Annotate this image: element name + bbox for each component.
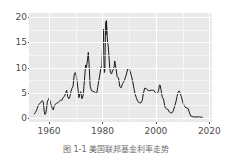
x-tick-mark	[102, 122, 103, 124]
gridline-minor-y	[29, 80, 212, 81]
figure-caption: 图 1-1 美国联邦基金利率走势	[0, 145, 232, 155]
x-tick-mark	[156, 122, 157, 124]
y-tick-label: 5	[5, 89, 27, 98]
y-tick-label: 0	[5, 114, 27, 123]
x-tick-mark	[49, 122, 50, 124]
y-tick-label: 15	[5, 38, 27, 47]
gridline-major-x	[209, 13, 210, 122]
gridline-minor-y	[29, 55, 212, 56]
gridline-minor-x	[129, 13, 130, 122]
x-axis: 1960198020002020	[29, 122, 212, 142]
gridline-major-y	[29, 118, 212, 119]
gridline-minor-y	[29, 30, 212, 31]
gridline-minor-y	[29, 105, 212, 106]
y-axis: 05101520	[0, 13, 27, 122]
gridline-minor-x	[183, 13, 184, 122]
gridline-major-y	[29, 68, 212, 69]
x-tick-label: 1960	[32, 126, 66, 136]
gridline-major-x	[49, 13, 50, 122]
y-tick-label: 20	[5, 13, 27, 22]
x-tick-label: 2000	[139, 126, 173, 136]
chart-figure: 05101520 1960198020002020 图 1-1 美国联邦基金利率…	[0, 0, 232, 157]
gridline-major-y	[29, 42, 212, 43]
x-tick-mark	[209, 122, 210, 124]
plot-panel	[29, 13, 212, 122]
gridline-major-y	[29, 17, 212, 18]
x-tick-label: 2020	[192, 126, 226, 136]
gridline-major-x	[156, 13, 157, 122]
gridline-minor-x	[76, 13, 77, 122]
y-tick-label: 10	[5, 64, 27, 73]
gridline-major-x	[102, 13, 103, 122]
x-tick-label: 1980	[85, 126, 119, 136]
gridline-major-y	[29, 93, 212, 94]
